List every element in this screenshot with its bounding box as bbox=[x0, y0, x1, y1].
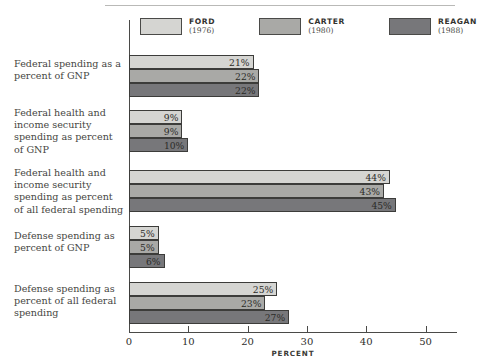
x-axis-tick-label: 50 bbox=[419, 336, 432, 347]
bar-ford-group-2[interactable]: 9% bbox=[129, 110, 182, 124]
x-axis-tick-label: 30 bbox=[301, 336, 314, 347]
category-label: Defense spending as percent of GNP bbox=[14, 230, 124, 254]
bar-carter-group-5[interactable]: 23% bbox=[129, 296, 265, 310]
x-axis-tick bbox=[188, 326, 189, 332]
x-axis-tick-label: 20 bbox=[241, 336, 254, 347]
bar-value-label: 9% bbox=[164, 126, 182, 137]
bar-value-label: 22% bbox=[235, 85, 258, 96]
x-axis-line bbox=[129, 332, 457, 333]
x-axis-tick bbox=[129, 326, 130, 332]
bar-value-label: 9% bbox=[164, 112, 182, 123]
bar-value-label: 27% bbox=[265, 312, 288, 323]
bar-reagan-group-3[interactable]: 45% bbox=[129, 198, 396, 212]
bar-reagan-group-1[interactable]: 22% bbox=[129, 83, 259, 97]
bar-carter-group-1[interactable]: 22% bbox=[129, 69, 259, 83]
category-label: Federal spending as a percent of GNP bbox=[14, 58, 124, 82]
x-axis-title: PERCENT bbox=[271, 349, 314, 358]
bar-reagan-group-2[interactable]: 10% bbox=[129, 138, 188, 152]
x-axis-tick bbox=[248, 326, 249, 332]
x-axis-tick-label: 40 bbox=[360, 336, 373, 347]
bar-value-label: 43% bbox=[360, 186, 383, 197]
x-axis-tick bbox=[426, 326, 427, 332]
category-label: Defense spending as percent of all feder… bbox=[14, 283, 124, 320]
bar-carter-group-3[interactable]: 43% bbox=[129, 184, 384, 198]
bar-ford-group-3[interactable]: 44% bbox=[129, 170, 390, 184]
bar-value-label: 10% bbox=[164, 140, 187, 151]
x-axis-tick bbox=[307, 326, 308, 332]
bar-value-label: 6% bbox=[146, 256, 164, 267]
bar-carter-group-4[interactable]: 5% bbox=[129, 240, 159, 254]
bar-reagan-group-4[interactable]: 6% bbox=[129, 254, 165, 268]
bar-value-label: 21% bbox=[229, 57, 252, 68]
bar-value-label: 5% bbox=[140, 228, 158, 239]
bar-reagan-group-5[interactable]: 27% bbox=[129, 310, 289, 324]
bar-value-label: 25% bbox=[253, 284, 276, 295]
bar-value-label: 44% bbox=[365, 172, 388, 183]
category-label: Federal health and income security spend… bbox=[14, 107, 124, 156]
x-axis-tick-label: 0 bbox=[126, 336, 132, 347]
bar-value-label: 22% bbox=[235, 71, 258, 82]
x-axis-tick bbox=[366, 326, 367, 332]
bar-ford-group-5[interactable]: 25% bbox=[129, 282, 277, 296]
bar-ford-group-4[interactable]: 5% bbox=[129, 226, 159, 240]
category-label: Federal health and income security spend… bbox=[14, 167, 124, 216]
bar-carter-group-2[interactable]: 9% bbox=[129, 124, 182, 138]
bar-value-label: 23% bbox=[241, 298, 264, 309]
x-axis-tick-label: 10 bbox=[182, 336, 195, 347]
bar-value-label: 45% bbox=[371, 200, 394, 211]
bar-ford-group-1[interactable]: 21% bbox=[129, 55, 254, 69]
bar-value-label: 5% bbox=[140, 242, 158, 253]
